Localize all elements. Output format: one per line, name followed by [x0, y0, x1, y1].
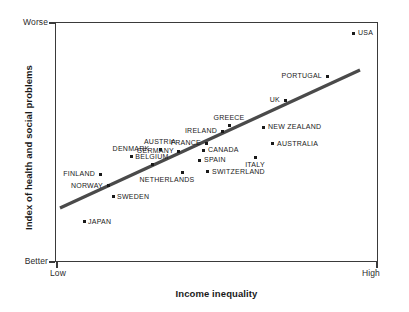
data-point-label: USA	[358, 29, 373, 36]
y-axis-title: Index of health and social problems	[23, 48, 34, 248]
plot-area	[55, 22, 378, 262]
data-point	[221, 130, 224, 133]
data-point	[205, 142, 208, 145]
data-point-label: DENMARK	[113, 145, 150, 152]
data-point	[284, 99, 287, 102]
data-point	[177, 150, 180, 153]
data-point-label: BELGIUM	[135, 153, 168, 160]
data-point	[99, 173, 102, 176]
data-point	[262, 126, 265, 129]
data-point-label: PORTUGAL	[282, 72, 322, 79]
data-point-label: AUSTRIA	[144, 138, 176, 145]
x-axis-label-high: High	[362, 268, 380, 278]
data-point	[107, 184, 110, 187]
data-point	[254, 156, 257, 159]
data-point	[112, 195, 115, 198]
data-point-label: ITALY	[245, 161, 265, 168]
x-axis-label-low: Low	[50, 268, 66, 278]
x-axis-title: Income inequality	[55, 288, 378, 299]
data-point-label: UK	[270, 96, 280, 103]
data-point-label: JAPAN	[88, 218, 111, 225]
data-point-label: FINLAND	[63, 170, 95, 177]
data-point-label: NORWAY	[71, 182, 103, 189]
data-point	[228, 124, 231, 127]
data-point-label: CANADA	[208, 146, 239, 153]
y-axis-label-better: Better	[25, 256, 48, 266]
data-point-label: AUSTRALIA	[277, 140, 318, 147]
data-point-label: NETHERLANDS	[140, 176, 195, 183]
scatter-plot-figure: Index of health and social problems Wors…	[0, 0, 409, 312]
data-point-label: GREECE	[213, 114, 244, 121]
data-point	[151, 163, 154, 166]
data-point	[130, 155, 133, 158]
data-point	[83, 220, 86, 223]
data-point	[352, 32, 355, 35]
data-point-label: NEW ZEALAND	[268, 123, 321, 130]
y-axis-label-worse: Worse	[23, 17, 48, 27]
data-point-label: SPAIN	[204, 156, 226, 163]
data-point	[206, 170, 209, 173]
data-point-label: SWITZERLAND	[212, 168, 265, 175]
data-point	[198, 159, 201, 162]
data-point	[271, 142, 274, 145]
data-point	[326, 75, 329, 78]
data-point	[202, 149, 205, 152]
data-point-label: IRELAND	[185, 127, 217, 134]
data-point-label: SWEDEN	[117, 193, 149, 200]
data-point	[181, 171, 184, 174]
